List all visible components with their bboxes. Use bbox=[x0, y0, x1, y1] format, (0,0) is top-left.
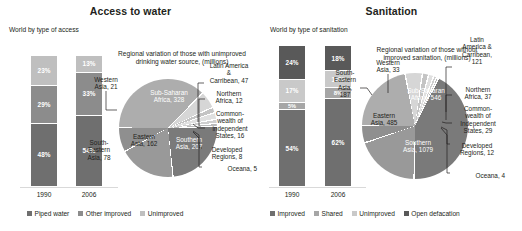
legend-item-piped-water[interactable]: Piped water bbox=[27, 210, 69, 217]
bar-segment-other-improved-1990-water: 29% bbox=[31, 86, 57, 124]
pie-label-northern-africa-sanitation: Northern Africa, 37 bbox=[451, 86, 505, 101]
label-line: South- bbox=[327, 69, 363, 76]
legend-item-unimproved[interactable]: Unimproved bbox=[140, 210, 183, 217]
label-line: America & bbox=[450, 43, 504, 50]
leader-line-south-eastern-asia-sanitation bbox=[359, 86, 373, 98]
pie-label-western-asia-water: Western Asia, 21 bbox=[86, 76, 126, 91]
bar-segment-label: 17% bbox=[286, 87, 299, 94]
label-line: Oceana, 5 bbox=[201, 165, 257, 172]
pie-label-latin-america-caribbean-sanitation: Latin America & Carribean, 121 bbox=[450, 36, 504, 66]
label-line: Western bbox=[86, 76, 126, 83]
bar-segment-label: 24% bbox=[286, 59, 299, 66]
bar-segment-improved-2006-sanitation: 62% bbox=[325, 99, 351, 186]
label-line: Latin bbox=[450, 36, 504, 43]
legend-sanitation: Improved Shared Unimproved Open defacati… bbox=[270, 210, 460, 217]
bar-segment-label: 5% bbox=[288, 103, 296, 110]
pie-label-western-asia-sanitation: Western Asia, 33 bbox=[368, 59, 408, 74]
leader-line-oceana-water bbox=[192, 131, 203, 169]
bar-segment-label: 18% bbox=[332, 55, 345, 62]
legend-item-shared[interactable]: Shared bbox=[314, 210, 343, 217]
legend-swatch-icon bbox=[270, 211, 275, 216]
pie-label-cis-sanitation: Common- wealth of Independent States, 29 bbox=[449, 105, 507, 135]
label-line: Western bbox=[368, 59, 408, 66]
legend-item-open-defacation[interactable]: Open defacation bbox=[404, 210, 460, 217]
label-line: Independent bbox=[449, 120, 507, 127]
label-line: Common- bbox=[203, 110, 257, 117]
subtitle-sanitation: World by type of sanitation bbox=[270, 26, 348, 33]
legend-swatch-icon bbox=[314, 211, 319, 216]
label-line: Latin America bbox=[200, 62, 258, 69]
pie-label-developed-regions-sanitation: Developed Regions, 12 bbox=[448, 142, 506, 157]
legend-label: Unimproved bbox=[359, 210, 395, 217]
panel-sanitation: Sanitation World by type of sanitation 2… bbox=[261, 0, 522, 231]
leader-line-western-asia-water bbox=[104, 90, 118, 112]
label-line: Northern bbox=[203, 90, 255, 97]
label-line: 121 bbox=[450, 58, 504, 65]
legend-water: Piped water Other improved Unimproved bbox=[27, 210, 183, 217]
pie-label-latin-america-caribbean-water: Latin America & Carribean, 47 bbox=[200, 62, 258, 84]
bar-segment-piped-water-1990-water: 48% bbox=[31, 124, 57, 186]
panel-access-to-water: Access to water World by type of access … bbox=[0, 0, 261, 231]
pie-label-oceana-sanitation: Oceana, 4 bbox=[449, 172, 505, 179]
label-line: States, 29 bbox=[449, 127, 507, 134]
page-title-water: Access to water bbox=[0, 5, 261, 17]
label-line: Africa, 37 bbox=[451, 93, 505, 100]
label-line: Eastern bbox=[80, 146, 118, 153]
legend-swatch-icon bbox=[404, 211, 409, 216]
axis-line-sanitation bbox=[269, 187, 366, 188]
label-line: South- bbox=[80, 139, 118, 146]
bar-segment-open-defacation-2006-sanitation: 18% bbox=[325, 46, 351, 71]
legend-swatch-icon bbox=[352, 211, 357, 216]
bar-segment-unimproved-1990-water: 23% bbox=[31, 56, 57, 86]
label-line: wealth of bbox=[449, 112, 507, 119]
label-line: Eastern bbox=[327, 76, 363, 83]
label-line: wealth of bbox=[203, 117, 257, 124]
bar-segment-unimproved-2006-water: 13% bbox=[76, 56, 102, 73]
pie-label-south-eastern-asia-water: South- Eastern Asia, 78 bbox=[80, 139, 118, 161]
label-line: States, 16 bbox=[203, 132, 257, 139]
bar-segment-improved-1990-sanitation: 54% bbox=[279, 110, 305, 186]
pie-label-cis-water: Common- wealth of independent States, 16 bbox=[203, 110, 257, 140]
label-line: Asia, 78 bbox=[80, 154, 118, 161]
bar-segment-label: 62% bbox=[332, 139, 345, 146]
pie-label-northern-africa-water: Northern Africa, 12 bbox=[203, 90, 255, 105]
bar-segment-label: 13% bbox=[83, 60, 96, 67]
legend-label: Open defacation bbox=[411, 210, 459, 217]
axis-line-water bbox=[20, 187, 118, 188]
page-title-sanitation: Sanitation bbox=[261, 5, 522, 17]
label-line: & bbox=[200, 69, 258, 76]
bar-segment-label: 33% bbox=[83, 90, 96, 97]
label-line: Asia, bbox=[327, 84, 363, 91]
label-line: Carribean, 47 bbox=[200, 77, 258, 84]
bar-segment-label: 54% bbox=[286, 145, 299, 152]
legend-item-unimproved-sanitation[interactable]: Unimproved bbox=[352, 210, 395, 217]
axis-label-1990-water: 1990 bbox=[24, 191, 64, 198]
pie-label-developed-regions-water: Developed Regions, 8 bbox=[200, 146, 254, 161]
pie-label-oceana-water: Oceana, 5 bbox=[201, 165, 257, 172]
bar-segment-shared-1990-sanitation: 5% bbox=[279, 103, 305, 110]
legend-label: Other improved bbox=[86, 210, 131, 217]
label-line: Carribean, bbox=[450, 51, 504, 58]
legend-label: Shared bbox=[322, 210, 343, 217]
bar-segment-label: 48% bbox=[38, 151, 51, 158]
bar-segment-unimproved-1990-sanitation: 17% bbox=[279, 80, 305, 104]
infographic-root: Access to water World by type of access … bbox=[0, 0, 522, 231]
label-line: independent bbox=[203, 125, 257, 132]
label-line: Regions, 12 bbox=[448, 149, 506, 156]
axis-label-2006-sanitation: 2006 bbox=[318, 191, 358, 198]
legend-item-improved[interactable]: Improved bbox=[270, 210, 305, 217]
leader-line-oceana-sanitation bbox=[440, 127, 451, 175]
leader-line-western-asia-sanitation bbox=[385, 73, 391, 95]
axis-label-2006-water: 2006 bbox=[69, 191, 109, 198]
label-line: Northern bbox=[451, 86, 505, 93]
legend-label: Unimproved bbox=[148, 210, 184, 217]
bar-segment-label: 23% bbox=[38, 67, 51, 74]
pie-label-south-eastern-asia-sanitation: South- Eastern Asia, 187 bbox=[327, 69, 363, 99]
pie-caption-line-1: Regional variation of those with unimpro… bbox=[108, 50, 256, 58]
label-line: 187 bbox=[327, 91, 363, 98]
legend-label: Piped water bbox=[35, 210, 70, 217]
label-line: Regions, 8 bbox=[200, 153, 254, 160]
legend-item-other-improved[interactable]: Other improved bbox=[78, 210, 131, 217]
legend-swatch-icon bbox=[27, 211, 32, 216]
subtitle-water: World by type of access bbox=[9, 26, 79, 33]
